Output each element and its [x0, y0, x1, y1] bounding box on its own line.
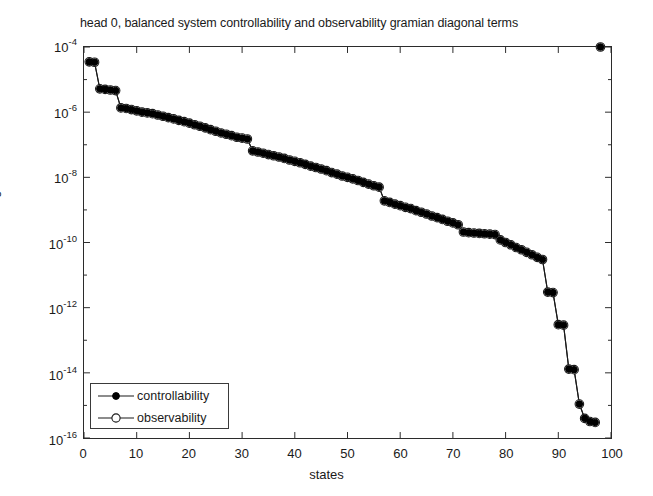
series-markers-observability — [85, 43, 605, 427]
x-tick-label: 90 — [552, 446, 566, 461]
open-circle-icon — [95, 408, 137, 428]
y-tick-label: 10-14 — [49, 365, 77, 382]
y-tick-label: 10-4 — [54, 37, 77, 54]
legend-label-observability: observability — [137, 411, 206, 425]
x-tick-label: 70 — [446, 446, 460, 461]
x-tick-label: 30 — [234, 446, 248, 461]
x-axis-label: states — [0, 467, 653, 482]
chart-title: head 0, balanced system controllability … — [80, 16, 518, 30]
x-tick-label: 60 — [393, 446, 407, 461]
y-tick-label: 10-16 — [49, 430, 77, 447]
y-tick-label: 10-12 — [49, 299, 77, 316]
y-tick-label: 10-10 — [49, 234, 77, 251]
data-plot — [84, 47, 611, 438]
x-tick-label: 20 — [182, 446, 196, 461]
x-tick-label: 50 — [340, 446, 354, 461]
x-tick-label: 40 — [287, 446, 301, 461]
figure-window: head 0, balanced system controllability … — [0, 0, 653, 496]
x-tick-label: 0 — [79, 446, 86, 461]
x-tick-label: 80 — [499, 446, 513, 461]
legend-item-controllability: controllability — [91, 384, 228, 407]
series-markers-controllability — [86, 44, 604, 426]
x-tick-label: 100 — [601, 446, 623, 461]
x-tick-label: 10 — [129, 446, 143, 461]
y-tick-label: 10-8 — [54, 168, 77, 185]
plot-area — [83, 46, 612, 439]
legend-item-observability: observability — [91, 406, 228, 429]
axis-ticks — [84, 47, 611, 438]
filled-circle-icon — [95, 386, 137, 406]
legend: controllability observability — [90, 383, 229, 429]
legend-label-controllability: controllability — [137, 389, 209, 403]
y-axis-label: diagonal — [0, 166, 1, 215]
y-tick-label: 10-6 — [54, 103, 77, 120]
